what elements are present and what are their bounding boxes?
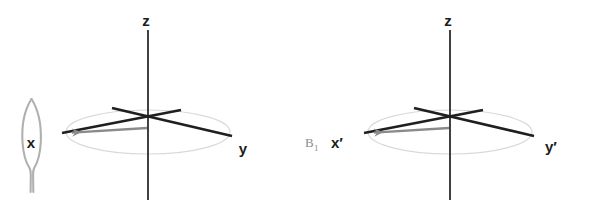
- b1-label-subscript: 1: [314, 143, 319, 153]
- b1-label-base: B: [305, 135, 314, 150]
- b1-label: B 1: [305, 135, 319, 153]
- z-axis-label-right: z: [444, 12, 452, 29]
- figure-root: z y x z y′ x′ B 1: [0, 0, 595, 208]
- x-axis-label-left: x: [27, 134, 36, 151]
- right-panel-group: z y′ x′ B 1: [305, 12, 557, 200]
- y-axis-label-left: y: [239, 140, 248, 157]
- x-prime-axis-label-right: x′: [331, 134, 343, 151]
- left-panel-group: z y x: [22, 12, 248, 200]
- y-prime-axis-label-right: y′: [545, 138, 557, 155]
- vector-diagram-canvas: z y x z y′ x′ B 1: [0, 0, 595, 208]
- z-axis-label-left: z: [142, 12, 150, 29]
